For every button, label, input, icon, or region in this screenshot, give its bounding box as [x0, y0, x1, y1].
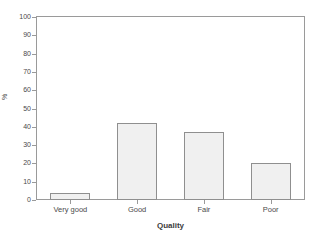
bar-slot — [104, 17, 171, 200]
x-axis-category-label: Very good — [37, 205, 104, 214]
x-axis-tick-mark — [70, 200, 71, 204]
bar — [251, 163, 291, 200]
bar — [50, 193, 90, 200]
x-axis-title: Quality — [37, 221, 304, 230]
x-axis-labels: Very goodGoodFairPoor — [37, 205, 304, 214]
x-tick-slot — [171, 200, 238, 204]
y-axis-tick-label: 90 — [23, 30, 31, 40]
x-axis-category-label: Fair — [171, 205, 238, 214]
x-tick-slot — [237, 200, 304, 204]
bar-slot — [37, 17, 104, 200]
x-tick-slot — [37, 200, 104, 204]
y-axis-title: % — [1, 94, 8, 100]
y-axis-tick-label: 60 — [23, 85, 31, 95]
x-axis-ticks — [37, 200, 304, 204]
y-axis: 0102030405060708090100 — [0, 0, 36, 239]
y-axis-tick-label: 40 — [23, 122, 31, 132]
bar — [184, 132, 224, 200]
y-axis-tick-label: 100 — [19, 12, 31, 22]
y-axis-tick-label: 10 — [23, 177, 31, 187]
x-axis-tick-mark — [204, 200, 205, 204]
bars-container — [37, 17, 304, 200]
y-axis-tick-label: 80 — [23, 49, 31, 59]
bar-chart: 0102030405060708090100 % Very goodGoodFa… — [0, 0, 321, 239]
x-axis-category-label: Poor — [237, 205, 304, 214]
y-axis-tick-label: 70 — [23, 67, 31, 77]
x-axis-tick-mark — [271, 200, 272, 204]
y-axis-tick-label: 30 — [23, 140, 31, 150]
bar-slot — [237, 17, 304, 200]
x-axis-tick-mark — [137, 200, 138, 204]
y-axis-tick-mark — [32, 200, 36, 201]
y-axis-tick-label: 20 — [23, 158, 31, 168]
bar-slot — [171, 17, 238, 200]
x-axis-category-label: Good — [104, 205, 171, 214]
y-axis-tick-label: 50 — [23, 104, 31, 114]
y-axis-tick-label: 0 — [27, 195, 31, 205]
x-tick-slot — [104, 200, 171, 204]
bar — [117, 123, 157, 200]
